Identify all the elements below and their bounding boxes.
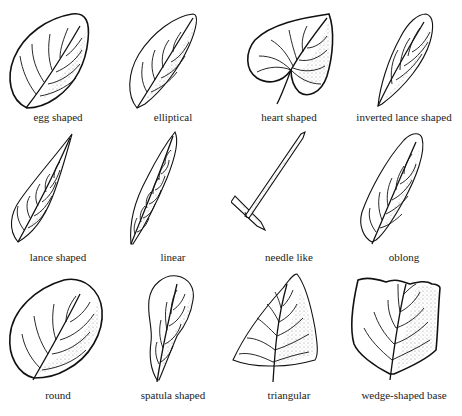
leaf-spatula-shaped: spatula shaped <box>115 270 230 416</box>
heart-leaf-drawing <box>231 0 346 110</box>
linear-leaf-drawing <box>115 130 230 250</box>
egg-leaf-drawing <box>0 0 115 110</box>
triangular-leaf-drawing <box>231 270 346 385</box>
needle-leaf-drawing <box>231 130 346 250</box>
inverted-lance-leaf-drawing <box>346 0 461 110</box>
leaf-round: round <box>0 270 115 416</box>
leaf-label: wedge-shaped base <box>334 389 462 401</box>
lance-leaf-drawing <box>0 130 115 250</box>
leaf-oblong: oblong <box>346 130 461 270</box>
leaf-egg-shaped: egg shaped <box>0 0 115 130</box>
wedge-leaf-drawing <box>346 270 461 385</box>
leaf-wedge-shaped-base: wedge-shaped base <box>346 270 461 416</box>
leaf-triangular: triangular <box>231 270 346 416</box>
leaf-elliptical: elliptical <box>115 0 230 130</box>
leaf-label: oblong <box>334 251 462 263</box>
leaf-linear: linear <box>115 130 230 270</box>
leaf-lance-shaped: lance shaped <box>0 130 115 270</box>
round-leaf-drawing <box>0 270 115 385</box>
leaf-inverted-lance-shaped: inverted lance shaped <box>346 0 461 130</box>
leaf-needle-like: needle like <box>231 130 346 270</box>
spatula-leaf-drawing <box>115 270 230 385</box>
leaf-heart-shaped: heart shaped <box>231 0 346 130</box>
oblong-leaf-drawing <box>346 130 461 250</box>
leaf-label: inverted lance shaped <box>334 111 462 123</box>
elliptical-leaf-drawing <box>115 0 230 110</box>
